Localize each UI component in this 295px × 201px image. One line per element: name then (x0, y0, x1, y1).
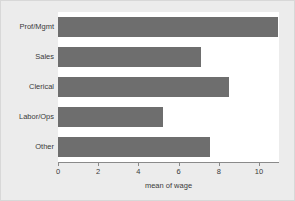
x-axis-tick-label: 0 (48, 167, 68, 176)
plot-area: Prof/MgmtSalesClericalLabor/OpsOther (58, 12, 279, 162)
x-axis-tick-label: 4 (128, 167, 148, 176)
x-axis-tick (259, 163, 260, 166)
category-label: Sales (0, 42, 58, 72)
x-axis-title: mean of wage (58, 181, 279, 190)
bar-row: Other (58, 132, 279, 162)
category-label: Prof/Mgmt (0, 12, 58, 42)
x-axis-tick-label: 6 (169, 167, 189, 176)
x-axis-tick (98, 163, 99, 166)
x-axis-tick (219, 163, 220, 166)
chart-figure: Prof/MgmtSalesClericalLabor/OpsOther mea… (0, 0, 295, 201)
x-axis-tick (179, 163, 180, 166)
category-label: Other (0, 132, 58, 162)
x-axis-tick (138, 163, 139, 166)
bar-row: Prof/Mgmt (58, 12, 279, 42)
x-axis-tick (58, 163, 59, 166)
bar (58, 107, 163, 127)
bar (58, 77, 229, 97)
x-axis-tick-label: 2 (88, 167, 108, 176)
bar (58, 17, 278, 37)
category-label: Clerical (0, 72, 58, 102)
bar (58, 137, 210, 157)
x-axis-line (58, 162, 279, 163)
x-axis-tick-label: 8 (209, 167, 229, 176)
category-label: Labor/Ops (0, 102, 58, 132)
bar-row: Labor/Ops (58, 102, 279, 132)
bar-row: Clerical (58, 72, 279, 102)
x-axis-tick-label: 10 (249, 167, 269, 176)
bar-row: Sales (58, 42, 279, 72)
bar (58, 47, 201, 67)
